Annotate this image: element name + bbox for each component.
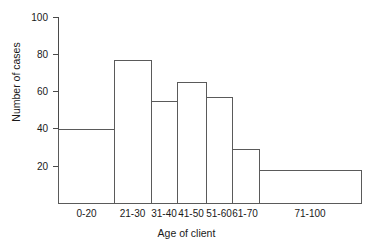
bar-21-30 bbox=[114, 60, 151, 203]
bar-41-50 bbox=[177, 83, 206, 204]
y-tick-label-20: 20 bbox=[18, 161, 48, 172]
x-tick-label-71-100: 71-100 bbox=[280, 208, 340, 219]
bar-71-100 bbox=[259, 170, 361, 204]
bar-31-40 bbox=[151, 101, 177, 203]
y-tick-label-60: 60 bbox=[18, 86, 48, 97]
bar-61-70 bbox=[232, 150, 259, 204]
y-tick-label-100: 100 bbox=[18, 12, 48, 23]
y-tick-label-40: 40 bbox=[18, 123, 48, 134]
x-tick-label-61-70: 61-70 bbox=[215, 208, 275, 219]
histogram-figure: 100 80 60 40 20 0-20 21-30 31-40 41-50 5… bbox=[0, 0, 373, 247]
y-axis-title: Number of cases bbox=[10, 22, 22, 142]
bar-0-20 bbox=[59, 129, 115, 203]
bar-51-60 bbox=[206, 98, 232, 204]
x-axis-title: Age of client bbox=[0, 227, 373, 239]
y-tick-label-80: 80 bbox=[18, 49, 48, 60]
